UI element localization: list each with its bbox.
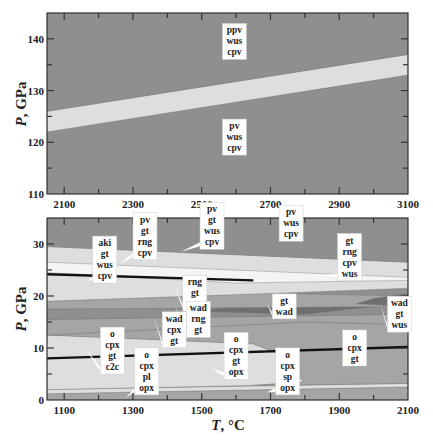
phase-name: gt — [351, 354, 360, 364]
phase-name: gt — [395, 309, 404, 319]
phase-name: opx — [139, 383, 154, 393]
bottom-y-tick-label: 0 — [39, 394, 45, 406]
phase-name: o — [110, 329, 115, 339]
top-x-tick-label: 2700 — [259, 198, 282, 210]
phase-name: gt — [191, 288, 200, 298]
phase-name: pv — [229, 121, 239, 131]
top-y-tick-label: 110 — [28, 188, 44, 200]
phase-name: wus — [226, 36, 242, 46]
phase-name: gt — [280, 296, 289, 306]
phase-name: cpv — [205, 237, 220, 247]
bottom-y-tick-label: 10 — [33, 342, 45, 354]
phase-name: cpx — [140, 361, 155, 371]
phase-label-pv-wus-cpv: pvwuscpv — [279, 205, 303, 241]
phase-name: wad — [391, 298, 409, 308]
phase-name: gt — [101, 249, 110, 259]
top-x-tick-label: 2100 — [53, 198, 76, 210]
phase-name: gt — [208, 215, 217, 225]
phase-name: o — [285, 350, 290, 360]
phase-name: rng — [188, 277, 203, 287]
phase-name: rng — [138, 237, 153, 247]
phase-name: cpv — [284, 229, 299, 239]
phase-name: pv — [207, 204, 217, 214]
top-y-tick-label: 120 — [28, 136, 45, 148]
phase-name: gt — [141, 226, 150, 236]
phase-name: wus — [226, 132, 242, 142]
top-y-tick-label: 140 — [28, 33, 45, 45]
phase-label-o-cpx-gt: ocpxgt — [343, 330, 367, 366]
phase-name: pv — [286, 207, 296, 217]
phase-name: cpx — [229, 345, 244, 355]
phase-name: wus — [97, 260, 113, 270]
bottom-x-tick-label: 1500 — [191, 404, 214, 416]
bottom-y-axis-title: P, GPa — [13, 286, 29, 332]
phase-name: cpx — [281, 361, 296, 371]
phase-name: wad — [190, 303, 208, 313]
x-axis-title: T, °C — [211, 417, 245, 433]
bottom-panel: 1100130015001700190021000102030akigtwusc… — [33, 202, 420, 416]
phase-name: cpv — [227, 47, 242, 57]
phase-name: wus — [204, 226, 220, 236]
phase-name: opx — [229, 367, 244, 377]
phase-name: cpv — [138, 248, 153, 258]
bottom-x-tick-label: 1100 — [53, 404, 75, 416]
phase-name: ppv — [227, 25, 243, 35]
phase-name: wus — [283, 218, 299, 228]
phase-name: gt — [108, 351, 117, 361]
phase-name: o — [144, 350, 149, 360]
phase-name: pv — [140, 215, 150, 225]
phase-name: cpx — [105, 340, 120, 350]
bottom-x-tick-label: 1900 — [328, 404, 351, 416]
phase-name: gt — [232, 356, 241, 366]
bottom-x-tick-label: 2100 — [397, 404, 420, 416]
bottom-y-tick-label: 20 — [33, 290, 45, 302]
phase-name: wus — [391, 320, 407, 330]
bottom-y-tick-label: 30 — [33, 238, 45, 250]
phase-name: wad — [276, 307, 294, 317]
phase-label-ppv-wus-cpv: ppvwuscpv — [222, 23, 246, 59]
phase-name: gt — [346, 236, 355, 246]
top-x-tick-label: 2900 — [328, 198, 351, 210]
phase-name: cpx — [167, 325, 182, 335]
phase-label-pv-wus-cpv: pvwuscpv — [222, 119, 246, 155]
phase-name: o — [352, 332, 357, 342]
phase-name: cpx — [348, 343, 363, 353]
phase-name: cpv — [98, 271, 113, 281]
top-y-axis-title: P, GPa — [13, 81, 29, 127]
phase-name: aki — [98, 238, 111, 248]
phase-name: sp — [283, 372, 292, 382]
top-y-tick-label: 130 — [28, 85, 45, 97]
phase-name: gt — [170, 336, 179, 346]
phase-name: cpv — [227, 143, 242, 153]
phase-diagram-figure: 210023002500270029003100110120130140ppvw… — [0, 0, 433, 445]
phase-name: rng — [191, 314, 206, 324]
bottom-x-tick-label: 1700 — [259, 404, 282, 416]
top-x-tick-label: 3100 — [397, 198, 420, 210]
phase-name: rng — [342, 247, 357, 257]
phase-name: wad — [166, 314, 184, 324]
phase-name: o — [234, 334, 239, 344]
phase-name: cpv — [342, 258, 357, 268]
bottom-x-tick-label: 1300 — [122, 404, 145, 416]
phase-label-aki-gt-wus-cpv: akigtwuscpv — [88, 236, 117, 283]
top-panel: 210023002500270029003100110120130140ppvw… — [28, 13, 420, 210]
phase-name: opx — [280, 383, 295, 393]
phase-name: c2c — [106, 362, 119, 372]
phase-name: wus — [342, 269, 358, 279]
phase-name: pl — [143, 372, 151, 382]
phase-name: gt — [194, 325, 203, 335]
top-x-tick-label: 2300 — [122, 198, 145, 210]
